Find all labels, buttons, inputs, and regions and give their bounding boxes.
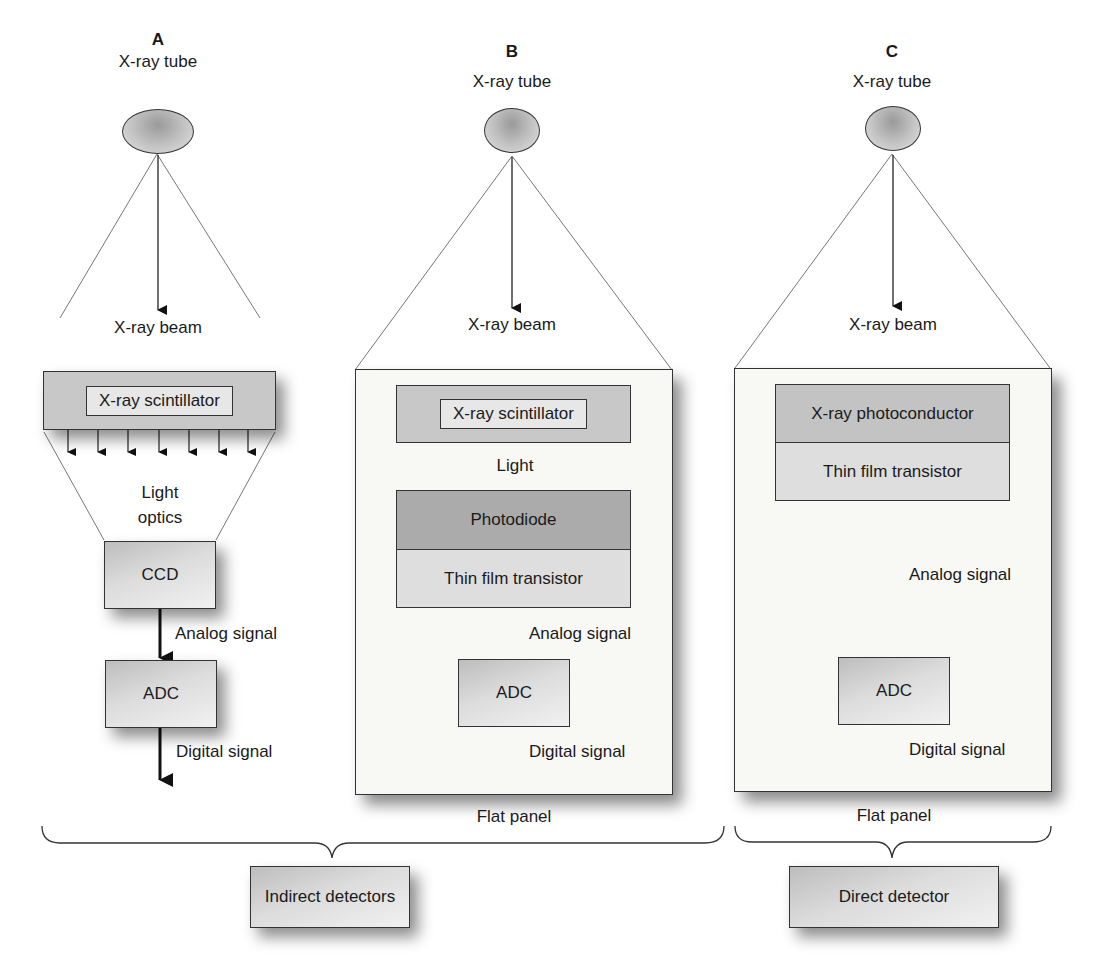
panel-b-scintillator: X-ray scintillator [396,385,631,443]
panel-b-tft-label: Thin film transistor [444,569,583,589]
panel-c-photoconductor: X-ray photoconductor [775,384,1010,443]
panel-a-digital-label: Digital signal [176,742,272,762]
panel-b-adc-label: ADC [496,683,532,703]
panel-c-adc-label: ADC [876,681,912,701]
panel-c-caption: Flat panel [857,806,932,826]
panel-c-analog-label: Analog signal [909,565,1011,585]
panel-b-xray-tube-icon [484,108,540,153]
panel-c-beam-label: X-ray beam [849,315,937,335]
panel-b-light-label: Light [497,456,534,476]
panel-a-optics-label-2: optics [138,508,182,528]
indirect-detectors-label: Indirect detectors [265,887,395,907]
panel-c-tft: Thin film transistor [775,442,1010,501]
panel-c-adc: ADC [838,657,950,725]
panel-a-optics-label-1: Light [142,483,179,503]
panel-a-scintillator-label: X-ray scintillator [86,386,233,416]
panel-a-analog-label: Analog signal [175,624,277,644]
direct-detector-box: Direct detector [789,866,999,928]
panel-b-scintillator-label: X-ray scintillator [440,399,587,429]
panel-c-tft-label: Thin film transistor [823,462,962,482]
panel-c-photoconductor-label: X-ray photoconductor [811,404,974,424]
panel-a-light-arrows [68,430,248,452]
panel-a-letter: A [152,30,164,50]
panel-a-adc-label: ADC [143,684,179,704]
panel-a-scintillator: X-ray scintillator [43,371,276,430]
panel-b-beam-label: X-ray beam [468,315,556,335]
panel-c-letter: C [886,42,898,62]
panel-a-xray-tube-icon [122,109,194,154]
panel-b-tft: Thin film transistor [396,549,631,608]
direct-detector-label: Direct detector [839,887,950,907]
panel-c-digital-label: Digital signal [909,740,1005,760]
indirect-detectors-box: Indirect detectors [250,866,410,928]
panel-c-tube-label: X-ray tube [853,72,931,92]
panel-b-digital-label: Digital signal [529,742,625,762]
panel-b-beam-cone [355,156,672,370]
panel-b-letter: B [506,42,518,62]
panel-b-adc: ADC [458,659,570,727]
panel-a-tube-label: X-ray tube [119,52,197,72]
panel-b-photodiode-label: Photodiode [470,510,556,530]
panel-b-caption: Flat panel [477,807,552,827]
panel-b-tube-label: X-ray tube [473,72,551,92]
panel-b-photodiode: Photodiode [396,490,631,550]
panel-c-xray-tube-icon [865,106,921,151]
panel-a-ccd: CCD [104,541,216,609]
panel-b-analog-label: Analog signal [529,624,631,644]
panel-a-adc: ADC [105,660,217,728]
indirect-brace [42,826,724,858]
direct-brace [735,826,1051,858]
panel-a-beam-label: X-ray beam [114,318,202,338]
panel-a-ccd-label: CCD [142,565,179,585]
